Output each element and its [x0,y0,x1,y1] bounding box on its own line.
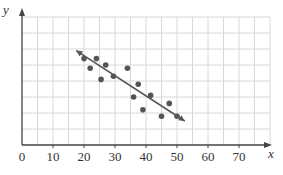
data-point [131,94,137,100]
x-tick-label: 0 [19,149,26,165]
data-point [140,107,146,113]
data-point [98,77,104,83]
data-point [159,113,165,119]
x-axis-label: x [268,146,274,162]
data-point [148,93,154,99]
data-point [111,73,117,79]
data-point [81,56,87,62]
data-point [94,56,100,62]
x-tick-label: 50 [171,149,184,165]
x-tick-label: 20 [78,149,91,165]
x-tick-label: 30 [109,149,122,165]
data-point [166,101,172,107]
x-tick-label: 60 [202,149,215,165]
y-axis-label: y [3,2,9,18]
x-tick-label: 70 [233,149,246,165]
data-point [87,65,93,71]
data-point [174,113,180,119]
data-point [125,65,131,71]
grid [22,17,270,145]
data-point [103,62,109,68]
data-point [135,81,141,87]
x-tick-label: 40 [140,149,153,165]
x-tick-label: 10 [47,149,60,165]
